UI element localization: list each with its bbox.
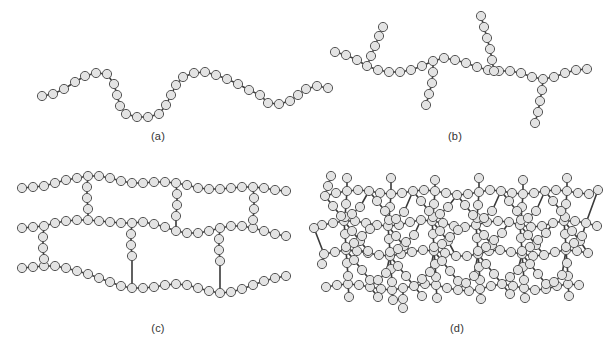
polymer-repeat-unit-bead (583, 248, 592, 257)
polymer-repeat-unit-bead (475, 284, 484, 293)
polymer-repeat-unit-bead (326, 171, 335, 180)
polymer-repeat-unit-bead (344, 292, 353, 301)
polymer-structures-figure: (a) (b) (c) (d) (0, 0, 615, 345)
polymer-repeat-unit-bead (441, 188, 450, 197)
polymer-repeat-unit-bead (398, 283, 407, 292)
polymer-repeat-unit-bead (481, 242, 490, 251)
polymer-repeat-unit-bead (397, 188, 406, 197)
polymer-repeat-unit-bead (418, 245, 427, 254)
polymer-repeat-unit-bead (437, 256, 446, 265)
polymer-repeat-unit-bead (386, 189, 395, 198)
panel-d-label: (d) (437, 322, 477, 334)
polymer-repeat-unit-bead (409, 230, 418, 239)
polymer-repeat-unit-bead (347, 209, 356, 218)
polymer-repeat-unit-bead (485, 185, 494, 194)
polymer-repeat-unit-bead (373, 275, 382, 284)
polymer-repeat-unit-bead (363, 246, 372, 255)
polymer-repeat-unit-bead (419, 185, 428, 194)
polymer-repeat-unit-bead (525, 242, 534, 251)
polymer-repeat-unit-bead (323, 181, 332, 190)
polymer-repeat-unit-bead (592, 221, 601, 230)
polymer-repeat-unit-bead (493, 216, 502, 225)
polymer-repeat-unit-bead (364, 186, 373, 195)
polymer-repeat-unit-bead (461, 278, 470, 287)
polymer-repeat-unit-bead (319, 249, 328, 258)
polymer-repeat-unit-bead (435, 226, 444, 235)
polymer-repeat-unit-bead (321, 282, 330, 291)
polymer-repeat-unit-bead (416, 215, 425, 224)
polymer-repeat-unit-bead (577, 231, 586, 240)
polymer-repeat-unit-bead (506, 247, 515, 256)
polymer-repeat-unit-bead (399, 207, 408, 216)
polymer-repeat-unit-bead (495, 245, 504, 254)
polymer-repeat-unit-bead (393, 244, 402, 253)
polymer-repeat-unit-bead (435, 209, 444, 218)
polymer-repeat-unit-bead (443, 202, 452, 211)
polymer-repeat-unit-bead (317, 259, 326, 268)
panel-d-diagram (0, 0, 615, 345)
polymer-repeat-unit-bead (518, 189, 527, 198)
polymer-repeat-unit-bead (474, 187, 483, 196)
polymer-repeat-unit-bead (468, 210, 477, 219)
polymer-repeat-unit-bead (425, 267, 434, 276)
polymer-repeat-unit-bead (437, 239, 446, 248)
polymer-repeat-unit-bead (469, 271, 478, 280)
polymer-repeat-unit-bead (355, 202, 364, 211)
polymer-repeat-unit-bead (562, 173, 571, 182)
polymer-repeat-unit-bead (505, 272, 514, 281)
polymer-repeat-unit-bead (548, 196, 557, 205)
polymer-repeat-unit-bead (533, 269, 542, 278)
polymer-repeat-unit-bead (541, 228, 550, 237)
polymer-repeat-unit-bead (309, 223, 318, 232)
polymer-repeat-unit-bead (409, 281, 418, 290)
polymer-repeat-unit-bead (523, 230, 532, 239)
polymer-repeat-unit-bead (407, 247, 416, 256)
polymer-repeat-unit-bead (476, 294, 485, 303)
polymer-repeat-unit-bead (562, 258, 571, 267)
polymer-repeat-unit-bead (504, 217, 513, 226)
polymer-repeat-unit-bead (341, 199, 350, 208)
polymer-repeat-unit-bead (430, 175, 439, 184)
polymer-repeat-unit-bead (489, 235, 498, 244)
polymer-repeat-unit-bead (320, 191, 329, 200)
polymer-repeat-unit-bead (398, 294, 407, 303)
panel-d-network (0, 0, 615, 345)
polymer-repeat-unit-bead (452, 190, 461, 199)
polymer-repeat-unit-bead (489, 269, 498, 278)
polymer-repeat-unit-bead (569, 238, 578, 247)
polymer-repeat-unit-bead (424, 206, 433, 215)
polymer-repeat-unit-bead (453, 285, 462, 294)
polymer-repeat-unit-bead (496, 186, 505, 195)
polymer-repeat-unit-bead (405, 217, 414, 226)
polymer-repeat-unit-bead (525, 259, 534, 268)
polymer-repeat-unit-bead (349, 255, 358, 264)
polymer-repeat-unit-bead (593, 185, 602, 194)
polymer-repeat-unit-bead (505, 289, 514, 298)
polymer-repeat-unit-bead (570, 216, 579, 225)
polymer-repeat-unit-bead (445, 266, 454, 275)
polymer-repeat-unit-bead (381, 268, 390, 277)
polymer-repeat-unit-bead (479, 230, 488, 239)
polymer-repeat-unit-bead (401, 237, 410, 246)
polymer-repeat-unit-bead (357, 231, 366, 240)
polymer-repeat-unit-bead (391, 214, 400, 223)
polymer-repeat-unit-bead (417, 274, 426, 283)
polymer-repeat-unit-bead (481, 259, 490, 268)
polymer-repeat-unit-bead (328, 201, 337, 210)
polymer-repeat-unit-bead (556, 206, 565, 215)
polymer-repeat-unit-bead (336, 211, 345, 220)
polymer-repeat-unit-bead (432, 293, 441, 302)
polymer-repeat-unit-bead (523, 213, 532, 222)
polymer-repeat-unit-bead (551, 185, 560, 194)
polymer-repeat-unit-bead (562, 186, 571, 195)
polymer-repeat-unit-bead (581, 218, 590, 227)
polymer-repeat-unit-bead (408, 186, 417, 195)
polymer-repeat-unit-bead (330, 247, 339, 256)
polymer-repeat-unit-bead (520, 293, 529, 302)
polymer-repeat-unit-bead (531, 206, 540, 215)
polymer-repeat-unit-bead (539, 250, 548, 259)
polymer-repeat-unit-bead (519, 275, 528, 284)
polymer-repeat-unit-bead (445, 232, 454, 241)
polymer-repeat-unit-bead (512, 206, 521, 215)
polymer-repeat-unit-bead (564, 291, 573, 300)
